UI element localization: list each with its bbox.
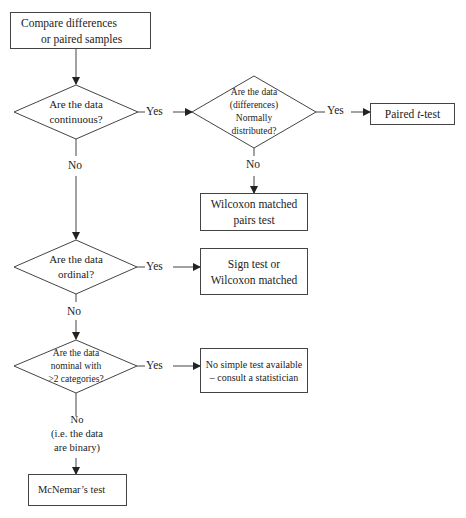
no-label-ordinal: No [67, 304, 81, 319]
sign-test-line1: Sign test or [228, 256, 280, 272]
sign-test-box: Sign test or Wilcoxon matched [200, 248, 308, 295]
yes-label-normal: Yes [327, 103, 344, 118]
wilcoxon-line2: pairs test [233, 212, 274, 228]
yes-label-nominal: Yes [146, 358, 163, 373]
q-normal-line3: Normally [207, 112, 301, 125]
q-ordinal-line2: ordinal? [26, 267, 126, 282]
paired-t-prefix: Paired [385, 106, 417, 122]
mcnemar-box: McNemar’s test [28, 474, 127, 506]
q-nominal-line2: nominal with [28, 360, 124, 373]
no-binary-line3: are binary) [46, 441, 108, 455]
q-normal-line4: distributed? [207, 125, 301, 138]
no-simple-line1: No simple test available [206, 358, 302, 371]
yes-label-continuous: Yes [146, 104, 163, 119]
q-continuous-line1: Are the data [26, 97, 126, 112]
start-box: Compare differences or paired samples [10, 12, 151, 49]
start-line2: or paired samples [21, 31, 122, 47]
no-simple-line2: – consult a statistician [210, 371, 299, 384]
wilcoxon-box: Wilcoxon matched pairs test [200, 193, 308, 231]
sign-test-line2: Wilcoxon matched [211, 272, 298, 288]
q-normal-line2: (differences) [207, 99, 301, 112]
q-continuous-line2: continuous? [26, 112, 126, 127]
q-continuous-text: Are the data continuous? [26, 97, 126, 127]
mcnemar-label: McNemar’s test [38, 482, 105, 498]
q-nominal-text: Are the data nominal with >2 categories? [28, 347, 124, 386]
q-ordinal-text: Are the data ordinal? [26, 252, 126, 282]
paired-t-test-box: Paired t-test [370, 103, 455, 125]
q-nominal-line1: Are the data [28, 347, 124, 360]
start-line1: Compare differences [21, 15, 122, 31]
yes-label-ordinal: Yes [146, 259, 163, 274]
no-label-continuous: No [68, 158, 82, 173]
q-normal-text: Are the data (differences) Normally dist… [207, 86, 301, 138]
no-label-normal: No [246, 157, 260, 172]
no-label-binary: No (i.e. the data are binary) [46, 413, 108, 455]
no-binary-line2: (i.e. the data [46, 427, 108, 441]
paired-t-suffix: -test [420, 106, 440, 122]
no-simple-test-box: No simple test available – consult a sta… [200, 348, 308, 393]
q-nominal-line3: >2 categories? [28, 373, 124, 386]
wilcoxon-line1: Wilcoxon matched [211, 196, 298, 212]
q-normal-line1: Are the data [207, 86, 301, 99]
q-ordinal-line1: Are the data [26, 252, 126, 267]
no-binary-line1: No [46, 413, 108, 427]
